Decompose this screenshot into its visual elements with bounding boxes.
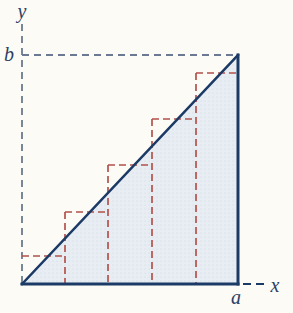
figure-canvas: y b a x	[0, 0, 293, 313]
b-tick-label: b	[4, 43, 14, 65]
x-axis-label: x	[270, 274, 280, 296]
figure: y b a x	[0, 0, 293, 313]
a-tick-label: a	[231, 286, 241, 308]
y-axis-label: y	[16, 0, 27, 23]
